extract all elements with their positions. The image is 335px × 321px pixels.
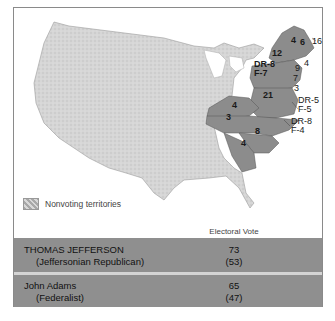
label-nj: 7 [293,74,298,83]
map-frame: 4 6 16 12 4 9 DR-8 F-7 7 3 21 DR-5 F-5 4… [13,7,323,307]
label-nc-f: F-4 [291,126,305,135]
header-line-1: Electoral Vote [194,227,274,237]
label-ny: 12 [272,49,282,58]
electoral-votes: 65 [204,280,264,292]
label-pa-f: F-7 [254,69,268,78]
label-ga: 4 [241,139,246,148]
electoral-percent: (47) [204,292,264,304]
label-ma: 16 [312,37,322,46]
label-ky: 4 [232,101,237,110]
electoral-percent: (53) [204,256,264,268]
label-sc: 8 [255,127,260,136]
legend-label: Nonvoting territories [45,199,121,209]
label-ri: 4 [304,59,309,68]
hatched-swatch-icon [23,198,39,210]
label-va: 21 [263,91,273,100]
candidate-party: (Federalist) [24,292,84,304]
candidate-name: John Adams [24,280,76,291]
label-nh: 4 [291,36,296,45]
us-map [14,8,324,208]
label-md-f: F-5 [298,105,312,114]
table-row: THOMAS JEFFERSON (Jeffersonian Republica… [14,238,322,272]
label-ct: 9 [295,64,300,73]
label-tn: 3 [226,113,231,122]
label-vt: 6 [300,38,305,47]
label-de: 3 [294,84,299,93]
legend: Nonvoting territories [23,198,121,210]
candidate-name: THOMAS JEFFERSON [24,244,124,255]
candidate-party: (Jeffersonian Republican) [24,256,144,268]
electoral-votes: 73 [204,244,264,256]
table-row: John Adams (Federalist) 65 (47) [14,275,322,307]
